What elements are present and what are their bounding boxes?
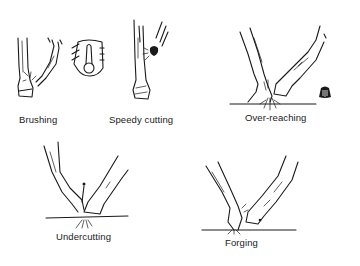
label-undercutting: Undercutting (56, 231, 111, 242)
brushing-boot-illustration (70, 38, 108, 80)
bell-boot-icon (318, 85, 332, 99)
forging-illustration (202, 152, 302, 234)
label-speedy-cutting: Speedy cutting (109, 114, 173, 125)
label-brushing: Brushing (19, 114, 57, 125)
brushing-illustration (14, 36, 64, 101)
label-forging: Forging (225, 237, 258, 248)
speedy-cutting-illustration (130, 18, 170, 102)
over-reaching-illustration (228, 24, 328, 110)
label-over-reaching: Over-reaching (245, 112, 307, 123)
undercutting-illustration (44, 142, 134, 228)
